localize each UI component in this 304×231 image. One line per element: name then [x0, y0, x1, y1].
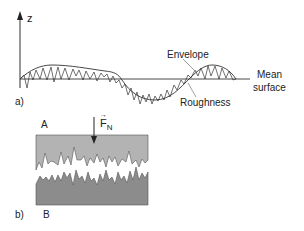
z-axis-label: z — [27, 12, 33, 24]
upper-body-label: A — [41, 119, 48, 130]
lower-body-label: B — [43, 209, 50, 220]
mean-surface-label-line2: surface — [253, 82, 286, 93]
normal-force-label: FN — [100, 117, 113, 132]
roughness-leader-line — [188, 83, 196, 97]
upper-body-a — [36, 135, 148, 170]
envelope-leader-line — [183, 59, 196, 72]
lower-body-b — [36, 167, 148, 205]
friction-surface-diagram: z Envelope Roughness Mean surface a) FN … — [0, 0, 304, 231]
panel-a: z Envelope Roughness Mean surface a) — [15, 11, 286, 108]
z-axis-arrow-icon — [17, 11, 23, 20]
normal-force-vector-mark: → — [100, 111, 107, 118]
normal-force-subscript: N — [107, 123, 113, 132]
mean-surface-label-line1: Mean — [257, 69, 282, 80]
panel-a-tag: a) — [15, 96, 24, 107]
roughness-label: Roughness — [180, 97, 231, 108]
panel-b-tag: b) — [15, 209, 24, 220]
panel-b: FN → A B b) — [15, 111, 148, 220]
envelope-label: Envelope — [167, 49, 209, 60]
